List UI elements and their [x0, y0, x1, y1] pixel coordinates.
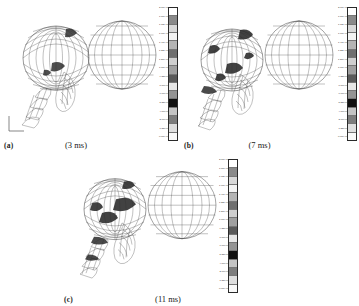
- legend-swatch: [229, 235, 237, 243]
- legend-swatch: [348, 16, 356, 24]
- legend-swatch: [229, 268, 237, 276]
- legend-swatch: [169, 25, 177, 33]
- facial-bone-mesh-a: [56, 72, 75, 112]
- legend-swatch: [169, 66, 177, 74]
- panel-c-time-label: (11 ms): [78, 294, 258, 304]
- cervical-spine-mesh-b: [198, 90, 225, 130]
- facial-bone-mesh-c: [114, 223, 135, 264]
- legend-swatch: [229, 243, 237, 251]
- legend-swatch: [348, 75, 356, 83]
- legend-a-colorbar: [168, 7, 178, 141]
- legend-swatch: [169, 41, 177, 49]
- legend-swatch: [348, 58, 356, 66]
- legend-swatch: [348, 108, 356, 116]
- legend-b-colorbar: [347, 7, 357, 141]
- legend-b: 2.00e+00 1.87e+00 1.73e+00 1.60e+00 1.47…: [340, 7, 357, 139]
- legend-swatch: [169, 83, 177, 91]
- legend-swatch: [229, 276, 237, 284]
- legend-swatch: [348, 25, 356, 33]
- legend-swatch: [169, 58, 177, 66]
- skull-mesh-a: [23, 26, 89, 90]
- legend-swatch: [169, 16, 177, 24]
- legend-swatch: [229, 227, 237, 235]
- legend-swatch: [169, 124, 177, 132]
- impactor-sphere-c: [148, 172, 216, 239]
- legend-b-ticks: 2.00e+00 1.87e+00 1.73e+00 1.60e+00 1.47…: [326, 7, 348, 139]
- legend-swatch: [229, 285, 237, 292]
- impactor-sphere-a: [88, 21, 156, 89]
- panel-b-time-label: (7 ms): [170, 140, 349, 150]
- legend-c-colorbar: [228, 159, 238, 293]
- coordinate-axis-triad-a: [6, 113, 28, 135]
- legend-swatch: [169, 133, 177, 140]
- legend-swatch: [169, 8, 177, 16]
- skull-dark-patch-a: [43, 29, 77, 76]
- legend-swatch: [169, 50, 177, 58]
- legend-swatch: [229, 260, 237, 268]
- legend-swatch: [229, 160, 237, 168]
- legend-swatch: [229, 202, 237, 210]
- legend-swatch: [229, 193, 237, 201]
- legend-swatch: [348, 50, 356, 58]
- legend-swatch: [169, 91, 177, 99]
- legend-swatch: [348, 8, 356, 16]
- spine-dark-patch-b: [201, 86, 217, 94]
- legend-a: 2.00e+00 1.87e+00 1.73e+00 1.60e+00 1.47…: [161, 7, 178, 139]
- skull-dark-patch-c: [90, 181, 136, 223]
- legend-swatch: [348, 83, 356, 91]
- impactor-sphere-b: [265, 21, 333, 89]
- legend-swatch: [169, 99, 177, 107]
- legend-swatch: [229, 210, 237, 218]
- panel-a-time-label: (3 ms): [0, 140, 166, 150]
- legend-swatch: [348, 91, 356, 99]
- legend-swatch: [169, 116, 177, 124]
- skull-mesh-b: [201, 29, 263, 91]
- legend-c: 2.00e+00 1.87e+00 1.73e+00 1.60e+00 1.47…: [221, 159, 238, 291]
- legend-swatch: [229, 177, 237, 185]
- legend-swatch: [169, 33, 177, 41]
- panel-c-letter: (c): [64, 295, 73, 304]
- legend-swatch: [229, 251, 237, 259]
- legend-swatch: [348, 133, 356, 140]
- legend-swatch: [169, 108, 177, 116]
- legend-swatch: [229, 218, 237, 226]
- legend-swatch: [348, 124, 356, 132]
- legend-a-ticks: 2.00e+00 1.87e+00 1.73e+00 1.60e+00 1.47…: [147, 7, 169, 139]
- legend-swatch: [169, 75, 177, 83]
- legend-swatch: [348, 116, 356, 124]
- legend-swatch: [348, 99, 356, 107]
- legend-c-ticks: 2.00e+00 1.87e+00 1.73e+00 1.60e+00 1.47…: [207, 159, 229, 291]
- legend-swatch: [348, 41, 356, 49]
- legend-swatch: [229, 168, 237, 176]
- legend-swatch: [348, 33, 356, 41]
- legend-swatch: [348, 66, 356, 74]
- figure-container: (a) (3 ms) 2.00e+00 1.87e+00 1.73e+00 1.…: [0, 0, 359, 306]
- legend-swatch: [229, 185, 237, 193]
